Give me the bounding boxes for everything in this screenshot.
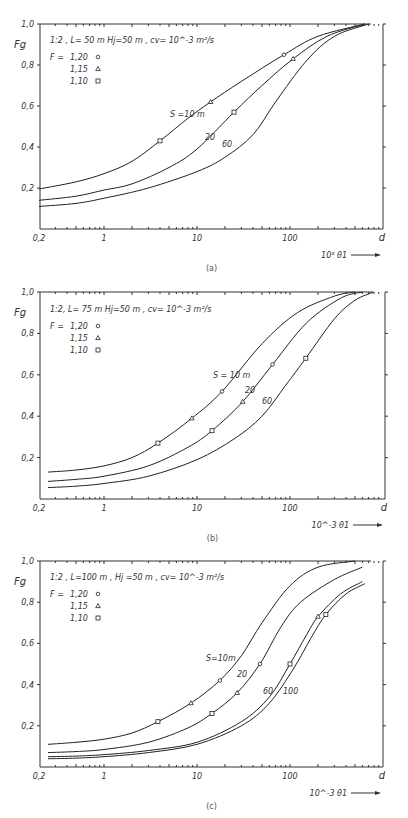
data-marker-square [304, 356, 308, 360]
curve-s-10-m [39, 24, 365, 189]
legend: F =1,201,151,10 [50, 53, 100, 86]
series-label: 100 [283, 687, 298, 696]
x-tick-label: 100 [282, 772, 297, 781]
legend-value: 1,10 [70, 346, 88, 355]
series-label: S = 10 m [213, 371, 251, 380]
legend-circle-icon [96, 592, 100, 596]
curve-s-20-m [48, 292, 362, 481]
data-marker-circle [258, 662, 262, 666]
y-tick-label: 0,4 [21, 412, 34, 421]
data-marker-circle [282, 53, 286, 57]
arrow-head-icon [375, 791, 381, 795]
curve-s-60-m [48, 292, 374, 488]
legend-triangle-icon [96, 67, 101, 71]
x-axis-label: 10³ θ1 [321, 251, 347, 260]
curve-s-10-m [48, 292, 355, 472]
x-tick-label: 10 [192, 772, 202, 781]
x-tick-label: 100 [282, 234, 297, 243]
legend-header: F = [50, 590, 64, 599]
y-tick-label: 0,2 [21, 184, 34, 193]
arrow-head-icon [375, 253, 381, 257]
y-axis-label: Fg [14, 307, 26, 318]
legend-value: 1,15 [70, 334, 88, 343]
y-tick-label: 1,0 [21, 557, 34, 566]
data-marker-circle [220, 390, 224, 394]
curve-s-100-m [48, 584, 365, 759]
data-marker-square [156, 441, 160, 445]
data-marker-circle [218, 679, 222, 683]
y-tick-label: 0,2 [21, 722, 34, 731]
data-marker-triangle [208, 100, 213, 104]
x-tick-label: 1 [101, 772, 106, 781]
x-tick-label: 0,2 [33, 504, 46, 513]
y-tick-label: 1,0 [21, 288, 34, 297]
legend-circle-icon [96, 55, 100, 59]
chart-title: 1:2, L= 75 m Hj=50 m , cv= 10^-3 m²/s [50, 305, 211, 314]
data-marker-square [232, 110, 236, 114]
y-tick-label: 0,2 [21, 454, 34, 463]
y-tick-label: 0,4 [21, 681, 34, 690]
x-tick-label: 1 [101, 504, 106, 513]
data-marker-square [288, 662, 292, 666]
x-end-label: d [381, 502, 388, 513]
x-end-label: d [379, 232, 386, 243]
legend: F =1,201,151,10 [50, 322, 100, 355]
x-axis-label: 10^-3 θ1 [310, 789, 347, 798]
legend-value: 1,15 [70, 65, 88, 74]
data-marker-square [210, 429, 214, 433]
series-label: 60 [222, 140, 232, 149]
x-tick-label: 10 [192, 504, 202, 513]
legend-value: 1,10 [70, 77, 88, 86]
series-label: S =10 m [170, 110, 205, 119]
legend-square-icon [96, 79, 100, 83]
series-label: 60 [262, 397, 272, 406]
x-tick-label: 10 [192, 234, 202, 243]
curve-s-10-m [48, 561, 355, 744]
legend-circle-icon [96, 324, 100, 328]
x-tick-label: 0,2 [33, 234, 46, 243]
legend-header: F = [50, 322, 64, 331]
legend-value: 1,20 [70, 322, 88, 331]
chart-panel-a: 0,20,40,60,81,00,2110100d10³ θ1Fg1:2 , L… [14, 20, 386, 273]
series-label: S=10m [206, 654, 236, 663]
data-marker-triangle [189, 701, 194, 705]
data-marker-circle [271, 363, 275, 367]
legend-triangle-icon [96, 604, 101, 608]
x-tick-label: 0,2 [33, 772, 46, 781]
legend-header: F = [50, 53, 64, 62]
chart-title: 1:2 , L= 50 m Hj=50 m , cv= 10^-3 m²/s [50, 36, 214, 45]
legend-triangle-icon [96, 336, 101, 340]
y-tick-label: 0,8 [21, 598, 34, 607]
legend-value: 1,15 [70, 602, 88, 611]
arrow-head-icon [377, 523, 383, 527]
figure-three-panels: 0,20,40,60,81,00,2110100d10³ θ1Fg1:2 , L… [0, 0, 408, 818]
panel-caption: (a) [206, 264, 217, 273]
series-label: 20 [205, 133, 215, 142]
data-marker-square [158, 139, 162, 143]
chart-panel-c: 0,20,40,60,81,00,2110100d10^-3 θ1Fg1:2 ,… [14, 557, 386, 811]
series-label: 20 [245, 386, 255, 395]
x-tick-label: 1 [101, 234, 106, 243]
y-tick-label: 0,6 [21, 639, 34, 648]
legend-square-icon [96, 616, 100, 620]
panel-caption: (c) [206, 802, 217, 811]
series-label: 20 [237, 670, 247, 679]
y-axis-label: Fg [14, 39, 26, 50]
legend-value: 1,20 [70, 53, 88, 62]
y-tick-label: 1,0 [21, 20, 34, 29]
y-tick-label: 0,6 [21, 102, 34, 111]
y-tick-label: 0,4 [21, 143, 34, 152]
y-tick-label: 0,8 [21, 329, 34, 338]
series-label: 60 [263, 687, 273, 696]
data-marker-square [210, 711, 214, 715]
chart-title: 1:2 , L=100 m , Hj =50 m , cv= 10^-3 m²/… [50, 573, 224, 582]
x-axis-label: 10^-3 θ1 [312, 521, 349, 530]
data-marker-square [324, 613, 328, 617]
panel-caption: (b) [207, 534, 218, 543]
legend-square-icon [96, 348, 100, 352]
x-tick-label: 100 [282, 504, 297, 513]
legend: F =1,201,151,10 [50, 590, 100, 623]
data-marker-square [156, 720, 160, 724]
legend-value: 1,20 [70, 590, 88, 599]
legend-value: 1,10 [70, 614, 88, 623]
